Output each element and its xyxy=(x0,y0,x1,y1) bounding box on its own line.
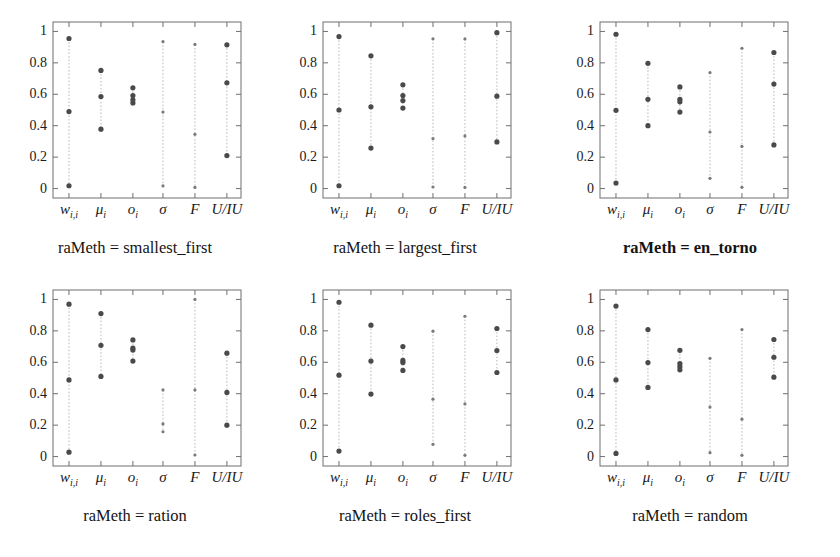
x-axis-tick-label: U/IU xyxy=(758,469,789,486)
data-point xyxy=(431,137,434,140)
x-axis-tick-label: oi xyxy=(128,469,138,488)
data-point xyxy=(130,347,135,352)
y-axis-tick-label: 0.4 xyxy=(577,118,595,134)
data-point xyxy=(613,180,618,185)
x-label-base: F xyxy=(190,201,199,217)
y-axis-tick-label: 0.4 xyxy=(300,386,318,402)
y-axis-tick-label: 0.4 xyxy=(577,386,595,402)
data-point xyxy=(771,375,776,380)
y-axis-tick-label: 0.2 xyxy=(30,149,48,165)
data-point xyxy=(677,364,682,369)
data-point xyxy=(708,357,711,360)
y-axis-tick-label: 0.2 xyxy=(577,149,595,165)
y-axis-tick-label: 0 xyxy=(587,181,594,197)
data-point xyxy=(161,388,164,391)
data-point xyxy=(494,139,499,144)
data-point xyxy=(463,315,466,318)
x-axis-tick-label: oi xyxy=(675,201,685,220)
data-point xyxy=(771,355,776,360)
data-point xyxy=(193,388,196,391)
x-axis-tick-label: oi xyxy=(128,201,138,220)
data-point xyxy=(463,134,466,137)
data-point xyxy=(740,186,743,189)
x-axis-tick-label: wi,i xyxy=(330,469,348,488)
x-axis-tick-label: oi xyxy=(398,201,408,220)
panel-caption: raMeth = en_torno xyxy=(540,238,840,258)
data-point xyxy=(66,109,71,114)
x-axis-tick-label: F xyxy=(737,201,746,218)
x-axis-tick-label: wi,i xyxy=(607,469,625,488)
data-point xyxy=(161,110,164,113)
data-point xyxy=(368,358,373,363)
x-label-base: F xyxy=(460,201,469,217)
axes-frame xyxy=(53,290,241,466)
data-point xyxy=(494,94,499,99)
data-point xyxy=(224,351,229,356)
data-point xyxy=(400,360,405,365)
data-point xyxy=(677,99,682,104)
x-label-subscript: i,i xyxy=(70,477,78,488)
x-label-base: σ xyxy=(706,201,713,217)
data-point xyxy=(66,183,71,188)
data-point xyxy=(368,53,373,58)
data-point xyxy=(400,344,405,349)
plot-canvas xyxy=(540,0,840,270)
y-axis-tick-label: 0.8 xyxy=(300,323,318,339)
data-point xyxy=(98,311,103,316)
x-axis-tick-label: F xyxy=(190,469,199,486)
x-label-subscript: i xyxy=(373,209,376,220)
data-point xyxy=(431,185,434,188)
data-point xyxy=(193,133,196,136)
x-label-base: μ xyxy=(96,469,104,485)
y-axis-tick-label: 0.6 xyxy=(300,86,318,102)
data-point xyxy=(645,123,650,128)
x-label-base: F xyxy=(737,469,746,485)
data-point xyxy=(494,370,499,375)
x-label-base: σ xyxy=(429,201,436,217)
y-axis-tick-label: 0.6 xyxy=(30,354,48,370)
x-axis-tick-label: F xyxy=(460,201,469,218)
x-axis-tick-label: U/IU xyxy=(481,201,512,218)
data-point xyxy=(677,84,682,89)
data-point xyxy=(224,423,229,428)
data-point xyxy=(431,37,434,40)
data-point xyxy=(613,108,618,113)
x-axis-tick-label: μi xyxy=(643,469,653,488)
plot-canvas xyxy=(270,0,570,270)
x-label-subscript: i xyxy=(405,209,408,220)
data-point xyxy=(400,98,405,103)
data-point xyxy=(431,330,434,333)
x-axis-tick-label: σ xyxy=(159,469,166,486)
x-axis-tick-label: μi xyxy=(366,201,376,220)
y-axis-tick-label: 0.8 xyxy=(300,55,318,71)
data-point xyxy=(130,337,135,342)
y-axis-tick-label: 1 xyxy=(40,291,47,307)
x-axis-tick-label: oi xyxy=(675,469,685,488)
data-point xyxy=(463,402,466,405)
y-axis-tick-label: 0.6 xyxy=(577,354,595,370)
data-point xyxy=(130,97,135,102)
axes-frame xyxy=(53,22,241,198)
x-axis-tick-label: U/IU xyxy=(481,469,512,486)
x-label-base: U/IU xyxy=(481,201,512,217)
y-axis-tick-label: 0.6 xyxy=(30,86,48,102)
data-point xyxy=(66,377,71,382)
y-axis-tick-label: 0.2 xyxy=(300,417,318,433)
x-label-base: o xyxy=(128,469,136,485)
chart-panel: 00.20.40.60.81wi,iμioiσFU/IUraMeth = rol… xyxy=(270,278,540,557)
y-axis-tick-label: 0.8 xyxy=(30,323,48,339)
chart-panel: 00.20.40.60.81wi,iμioiσFU/IUraMeth = en_… xyxy=(540,0,840,278)
x-label-base: σ xyxy=(159,469,166,485)
data-point xyxy=(161,430,164,433)
axes-frame xyxy=(600,290,788,466)
data-point xyxy=(740,145,743,148)
data-point xyxy=(645,97,650,102)
y-axis-tick-label: 0 xyxy=(587,449,594,465)
data-point xyxy=(613,303,618,308)
data-point xyxy=(98,94,103,99)
x-label-base: w xyxy=(607,469,617,485)
data-point xyxy=(708,71,711,74)
x-axis-tick-label: μi xyxy=(96,469,106,488)
x-axis-tick-label: σ xyxy=(706,469,713,486)
x-label-base: o xyxy=(398,469,406,485)
